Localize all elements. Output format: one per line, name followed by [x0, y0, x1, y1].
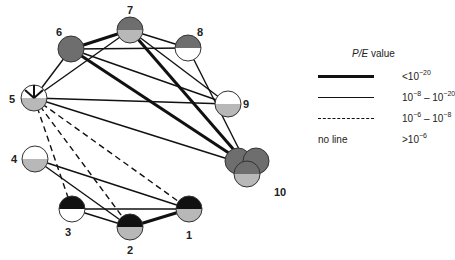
node-3: 3 — [59, 196, 85, 238]
no-line-label: no line — [318, 134, 374, 145]
edge-6-8-thin — [71, 48, 188, 49]
node-4: 4 — [11, 146, 48, 172]
edge-6-9-thin — [71, 49, 228, 104]
node-1: 1 — [176, 196, 202, 241]
legend-title-italic: P/E — [352, 48, 368, 59]
thick-line-swatch — [318, 75, 374, 78]
node-label-9: 9 — [243, 98, 249, 110]
node-5: 5 — [9, 85, 47, 111]
node-9: 9 — [215, 91, 249, 117]
node-label-4: 4 — [11, 153, 18, 165]
node-7: 7 — [117, 4, 143, 43]
node-8: 8 — [175, 26, 203, 61]
legend-title: P/E value — [352, 48, 395, 59]
dashed-line-swatch — [318, 118, 374, 119]
legend-separator: – — [421, 113, 432, 124]
legend-exponent: −8 — [443, 111, 451, 118]
node-label-7: 7 — [127, 4, 133, 16]
network-diagram: 12345678910 — [0, 0, 455, 260]
node-label-6: 6 — [56, 26, 62, 38]
legend-value: >10 — [402, 134, 419, 145]
legend-value: 10 — [432, 92, 443, 103]
legend-row-none: no line >10−6 — [318, 132, 427, 146]
legend-row-thin: 10−8 – 10−20 — [318, 90, 455, 104]
legend-value: <10 — [402, 71, 419, 82]
edge-5-9-thin — [34, 98, 228, 104]
legend-label-thin: 10−8 – 10−20 — [402, 92, 455, 103]
node-label-2: 2 — [127, 244, 133, 256]
legend-separator: – — [421, 92, 432, 103]
thin-line-swatch — [318, 97, 374, 98]
node-label-10: 10 — [274, 186, 286, 198]
node-label-5: 5 — [9, 93, 15, 105]
edge-5-10-thin — [34, 98, 247, 165]
legend-label-thick: <10−20 — [402, 71, 431, 82]
node-label-1: 1 — [186, 229, 192, 241]
legend-value: 10 — [432, 113, 443, 124]
legend-value: 10 — [402, 92, 413, 103]
legend-exponent: −20 — [443, 90, 455, 97]
legend-exponent: −8 — [413, 90, 421, 97]
legend-title-rest: value — [368, 48, 395, 59]
nodes-layer: 12345678910 — [9, 4, 286, 256]
node-label-8: 8 — [197, 26, 203, 38]
node-6: 6 — [56, 26, 84, 62]
node-label-3: 3 — [65, 226, 71, 238]
legend-label-dashed: 10−6 – 10−8 — [402, 113, 451, 124]
node-2: 2 — [117, 214, 143, 256]
legend-row-dashed: 10−6 – 10−8 — [318, 111, 451, 125]
legend-value: 10 — [402, 113, 413, 124]
legend-row-thick: <10−20 — [318, 69, 431, 83]
legend-exponent: −6 — [419, 132, 427, 139]
edge-5-1-dashed — [34, 98, 189, 209]
legend-label-none: >10−6 — [402, 134, 427, 145]
legend-exponent: −20 — [419, 69, 431, 76]
legend-exponent: −6 — [413, 111, 421, 118]
node-10: 10 — [225, 148, 286, 198]
